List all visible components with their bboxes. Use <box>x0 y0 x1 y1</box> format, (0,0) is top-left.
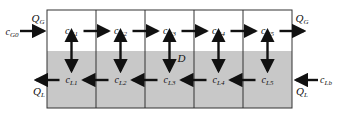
gas-flow-right-label: QG <box>295 12 308 26</box>
exchange-label: D <box>177 52 186 64</box>
liquid-flow-right-label: QL <box>296 85 308 99</box>
gas-flow-left-label: QG <box>31 12 44 26</box>
liquid-inlet-label: cLb <box>320 74 332 87</box>
stage-diagram: cG1cL1cG2cL2cG3cL3cG4cL4cG5cL5QGcG0QGQLQ… <box>0 0 338 115</box>
liquid-flow-left-label: QL <box>33 85 45 99</box>
gas-inlet-label: cG0 <box>5 26 19 39</box>
